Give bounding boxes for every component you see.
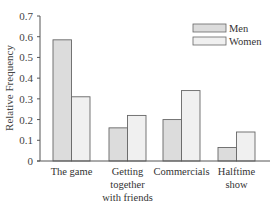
y-tick-label: 0.5 [19, 51, 33, 63]
y-tick-label: 0.6 [19, 31, 33, 43]
bar-men [109, 128, 128, 161]
y-axis-title: Relative Frequency [3, 45, 15, 131]
x-tick-label: show [225, 179, 248, 190]
y-tick-label: 0.3 [19, 93, 33, 105]
bars [53, 40, 255, 161]
bar-men [163, 120, 182, 161]
bar-women [182, 91, 201, 161]
legend-swatch-men [193, 24, 226, 32]
legend-swatch-women [193, 37, 226, 45]
bar-women [128, 115, 147, 161]
x-tick-label: The game [51, 166, 93, 177]
y-tick-label: 0.4 [19, 72, 33, 84]
x-tick-label: Getting [112, 166, 144, 177]
y-tick-label: 0 [28, 155, 34, 167]
legend-label-men: Men [229, 23, 249, 34]
bar-chart: 00.10.20.30.40.50.60.7 The gameGettingto… [0, 0, 273, 208]
y-axis: 00.10.20.30.40.50.60.7 [19, 10, 40, 167]
x-tick-label: together [110, 179, 145, 190]
x-tick-label: Halftime [218, 166, 256, 177]
x-tick-label: Commercials [154, 166, 210, 177]
bar-men [53, 40, 72, 161]
legend: Men Women [193, 23, 262, 47]
legend-label-women: Women [229, 36, 262, 47]
bar-women [237, 132, 256, 161]
y-tick-label: 0.7 [19, 10, 33, 22]
y-tick-label: 0.2 [19, 114, 33, 126]
bar-women [72, 97, 91, 161]
x-tick-label: with friends [102, 192, 152, 203]
y-tick-label: 0.1 [19, 134, 33, 146]
x-axis: The gameGettingtogetherwith friendsComme… [37, 161, 270, 203]
bar-men [218, 148, 237, 161]
